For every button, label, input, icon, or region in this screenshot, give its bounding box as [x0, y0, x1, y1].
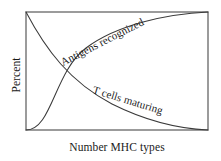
curve-label-antigens-recognized: Antigens recognized — [58, 15, 146, 68]
plot-area: Antigens recognized T cells maturing — [0, 0, 221, 161]
y-axis-label: Percent — [8, 16, 24, 134]
x-axis-label: Number MHC types — [26, 141, 208, 153]
figure-container: Antigens recognized T cells maturing Per… — [0, 0, 221, 161]
